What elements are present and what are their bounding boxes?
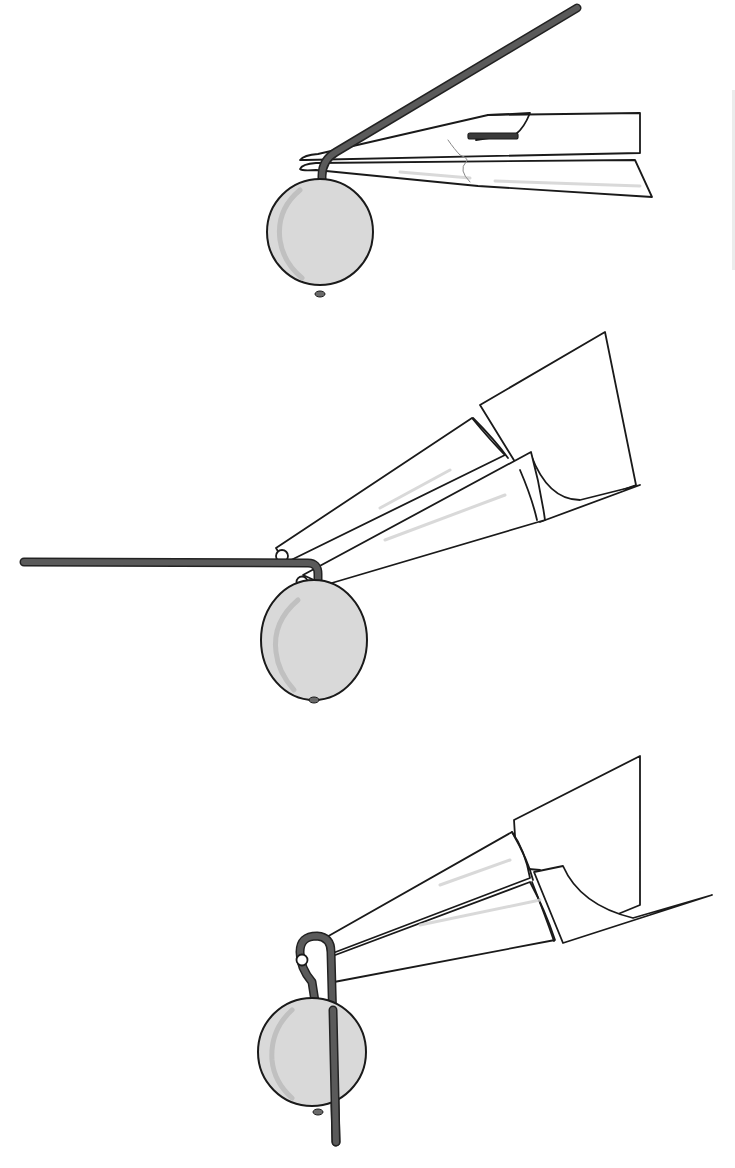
bead-icon (267, 179, 373, 297)
bead-icon (258, 998, 366, 1142)
step-3-group (258, 756, 712, 1142)
chain-nose-pliers-icon (300, 113, 652, 197)
round-nose-pliers-icon (325, 756, 712, 982)
bead-icon (261, 580, 367, 703)
step-2-group (24, 332, 640, 703)
wire-icon (24, 562, 318, 592)
step-1-group (267, 8, 652, 297)
round-nose-pliers-icon (276, 332, 640, 588)
wire-loop-illustration (0, 0, 735, 1168)
